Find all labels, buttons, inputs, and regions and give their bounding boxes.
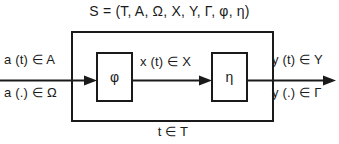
eta-glyph: η [226, 70, 234, 84]
output-signal-label: y (t) ∈ Y [272, 52, 323, 67]
output-function-block: η [211, 52, 248, 102]
transition-function-block: φ [96, 52, 133, 102]
output-arrow-icon [248, 72, 337, 83]
input-function-label: a (.) ∈ Ω [4, 85, 57, 100]
system-title: S = (T, A, Ω, X, Y, Γ, φ, η) [0, 3, 339, 19]
input-signal-label: a (t) ∈ A [4, 52, 55, 67]
state-label: x (t) ∈ X [140, 54, 191, 69]
time-set-label: t ∈ T [71, 124, 275, 139]
phi-glyph: φ [110, 70, 119, 84]
system-diagram: S = (T, A, Ω, X, Y, Γ, φ, η) a (t) ∈ A a… [0, 0, 339, 144]
state-arrow-icon [133, 72, 213, 83]
output-function-label: y (.) ∈ Γ [272, 85, 322, 100]
input-arrow-icon [0, 72, 98, 83]
